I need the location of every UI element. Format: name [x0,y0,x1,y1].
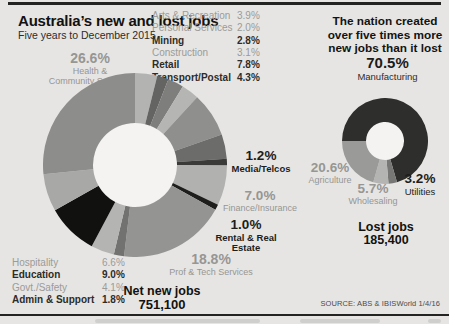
callout-media-telcos: 1.2% Media/Telcos [226,149,296,174]
net-new-jobs-value: 751,100 [113,298,211,312]
headline-line1: The nation created [315,15,449,29]
list-row-arts-recreation: Arts & Recreation3.9% [152,10,267,22]
callout-health-pct: 26.6% [34,51,146,66]
callout-media-name: Media/Telcos [226,164,296,174]
list-row-hospitality: Hospitality6.6% [12,257,147,269]
industry-value: 3.9% [237,10,260,22]
callout-utilities: 3.2% Utilities [398,172,442,197]
list-row-construction: Construction3.1% [152,47,267,59]
list-row-retail: Retail7.8% [152,59,267,71]
headline-line2: over five times more [315,29,449,43]
industry-value: 2.0% [237,22,260,34]
callout-agriculture-pct: 20.6% [301,161,359,175]
industry-value: 2.8% [237,35,260,47]
industry-value: 6.6% [102,257,125,269]
callout-utilities-name: Utilities [398,187,442,197]
industry-value: 4.3% [237,72,260,84]
callout-manufacturing-pct: 70.5% [340,55,435,71]
industry-value: 3.1% [237,47,260,59]
headline: The nation created over five times more … [315,15,449,56]
callout-manufacturing-name: Manufacturing [340,71,435,82]
industry-value: 9.0% [102,269,125,281]
list-row-education: Education9.0% [12,269,147,281]
industry-label: Retail [152,59,179,71]
industry-label: Admin & Support [12,294,94,306]
callout-media-pct: 1.2% [226,149,296,163]
bottom-rule [0,314,449,316]
list-row-personal-services: Personal Services2.0% [152,22,267,34]
callout-rental-pct: 1.0% [200,218,292,232]
callout-rental-real-estate: 1.0% Rental & Real Estate [200,218,292,253]
industry-label: Arts & Recreation [152,10,230,22]
callout-prof-tech-services: 18.8% Prof & Tech Services [168,252,254,277]
industry-label: Construction [152,47,208,59]
industry-label: Mining [152,35,184,47]
cutoff-print-artifact [95,319,260,323]
callout-proftech-pct: 18.8% [168,252,254,267]
callout-wholesaling: 5.7% Wholesaling [344,182,402,207]
callout-finance-pct: 7.0% [222,189,298,203]
callout-wholesaling-pct: 5.7% [344,182,402,196]
cutoff-print-artifact [428,319,441,323]
list-row-mining: Mining2.8% [152,35,267,47]
callout-wholesaling-name: Wholesaling [344,197,402,206]
callout-proftech-name: Prof & Tech Services [168,268,254,277]
net-new-jobs-total: Net new jobs 751,100 [113,285,211,312]
lost-jobs-value: 185,400 [338,234,434,247]
callout-utilities-pct: 3.2% [398,172,442,186]
callout-finance-name: Finance/Insurance [222,204,298,213]
lost-jobs-total: Lost jobs 185,400 [338,221,434,247]
industry-label: Personal Services [152,22,233,34]
industry-label: Education [12,269,60,281]
donut-hole [366,122,404,160]
callout-finance-insurance: 7.0% Finance/Insurance [222,189,298,214]
industry-value: 7.8% [237,59,260,71]
cutoff-print-artifact [300,319,380,323]
page-subtitle: Five years to December 2015 [18,29,156,41]
source-credit: SOURCE: ABS & IBISWorld 1/4/16 [320,299,440,308]
industry-label: Hospitality [12,257,58,269]
industry-label: Govt./Safety [12,282,67,294]
top-rule [8,2,441,5]
donut-hole [93,123,177,207]
callout-manufacturing: 70.5% Manufacturing [340,55,435,82]
